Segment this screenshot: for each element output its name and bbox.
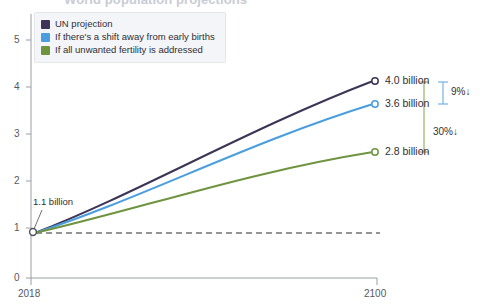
legend-item-shift-early-births: If there's a shift away from early birth… (41, 31, 215, 43)
chart-container: World population projections (0, 0, 480, 307)
endpoint-marker-unwanted-fertility (372, 149, 378, 155)
endpoint-label-unwanted-fertility: 2.8 billion (385, 145, 429, 157)
reduction-label-blue: 9%↓ (451, 86, 470, 97)
x-tick-label-2018: 2018 (18, 288, 40, 299)
start-point-marker (30, 229, 37, 236)
endpoint-marker-un-projection (372, 78, 378, 84)
chart-legend: UN projection If there's a shift away fr… (34, 12, 226, 63)
legend-label-un-projection: UN projection (55, 18, 113, 30)
reduction-bracket-green (419, 82, 429, 152)
x-axis-ticks (31, 278, 377, 285)
legend-item-un-projection: UN projection (41, 18, 215, 30)
y-tick-label-3: 3 (14, 128, 20, 139)
series-line-shift-early-births (35, 104, 373, 233)
legend-swatch-unwanted-fertility (41, 46, 50, 55)
y-tick-label-4: 4 (14, 81, 20, 92)
endpoint-marker-shift-early-births (372, 101, 378, 107)
x-tick-label-2100: 2100 (364, 288, 386, 299)
y-tick-label-0: 0 (14, 272, 20, 283)
legend-label-shift-early-births: If there's a shift away from early birth… (55, 31, 215, 43)
y-tick-label-1: 1 (14, 222, 20, 233)
reduction-label-green: 30%↓ (433, 126, 458, 137)
y-axis-ticks (26, 40, 31, 278)
y-tick-label-2: 2 (14, 175, 20, 186)
endpoint-label-un-projection: 4.0 billion (385, 74, 429, 86)
legend-swatch-un-projection (41, 20, 50, 29)
series-line-unwanted-fertility (35, 152, 373, 233)
reduction-bracket-blue (438, 82, 448, 104)
legend-label-unwanted-fertility: If all unwanted fertility is addressed (55, 44, 203, 56)
start-label-leader-line (34, 210, 42, 229)
endpoint-label-shift-early-births: 3.6 billion (385, 97, 429, 109)
y-tick-label-5: 5 (14, 34, 20, 45)
start-value-label: 1.1 billion (33, 196, 73, 207)
legend-swatch-shift-early-births (41, 33, 50, 42)
legend-item-unwanted-fertility: If all unwanted fertility is addressed (41, 44, 215, 56)
series-line-un-projection (35, 81, 373, 233)
